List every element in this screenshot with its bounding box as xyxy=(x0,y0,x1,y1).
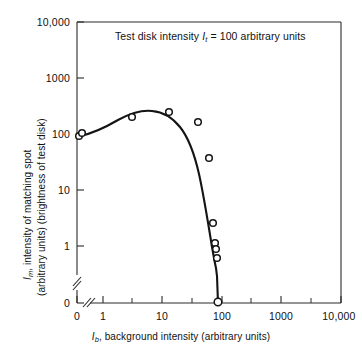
data-point xyxy=(195,119,202,126)
x-tick-label-100: 100 xyxy=(202,310,242,322)
y-axis-break-icon xyxy=(73,277,81,290)
y-tick-label-10000: 10,000 xyxy=(8,16,70,28)
x-tick-label-1000: 1000 xyxy=(261,310,301,322)
data-point xyxy=(79,130,86,137)
data-curve xyxy=(80,111,218,303)
data-point xyxy=(166,109,173,116)
y-axis-label-line1: Im, intensity of matching spot xyxy=(22,150,35,280)
y-label-symbol: I xyxy=(22,277,33,280)
y-axis-label-line2: (arbitrary units) (brightness of test di… xyxy=(36,118,47,296)
y-label-rest: , intensity of matching spot xyxy=(22,150,33,271)
y-tick-label-1000: 1000 xyxy=(8,72,70,84)
data-point xyxy=(214,298,222,306)
x-label-rest: , background intensity (arbitrary units) xyxy=(99,331,270,342)
data-point xyxy=(129,114,136,121)
x-axis-label: Ib, background intensity (arbitrary unit… xyxy=(0,331,362,344)
annotation-text-after: = 100 arbitrary units xyxy=(207,30,305,42)
x-tick-label-10: 10 xyxy=(142,310,182,322)
data-point xyxy=(206,155,213,162)
y-label-subscript: m xyxy=(26,271,35,277)
x-tick-label-1: 1 xyxy=(83,310,123,322)
data-markers xyxy=(76,109,222,306)
plot-frame xyxy=(77,22,341,303)
x-tick-label-10000: 10,000 xyxy=(317,310,361,322)
figure: 10,000 1000 100 10 1 0 0 1 10 100 1000 1… xyxy=(0,0,362,352)
chart-annotation: Test disk intensity It = 100 arbitrary u… xyxy=(115,30,306,44)
data-point xyxy=(214,255,221,262)
data-point xyxy=(213,246,220,253)
data-point xyxy=(210,220,217,227)
y-axis-ticks xyxy=(77,22,84,303)
y-tick-label-0: 0 xyxy=(8,297,70,309)
annotation-text-before: Test disk intensity xyxy=(115,30,202,42)
x-axis-ticks xyxy=(77,296,341,303)
